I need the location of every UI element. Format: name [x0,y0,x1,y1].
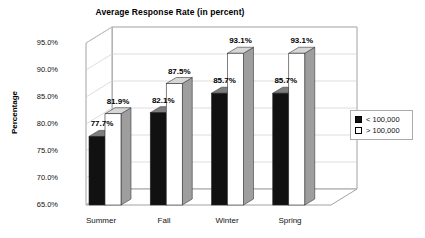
x-tick-label-winter: Winter [192,216,262,225]
bar-value-label: 85.7% [267,76,305,85]
bar-value-label: 77.7% [83,119,121,128]
legend-item-over-100000: > 100,000 [355,125,408,136]
bar-value-label: 93.1% [222,36,260,45]
legend-swatch-icon [355,127,362,134]
chart-root: Average Response Rate (in percent) Perce… [0,0,425,238]
bar-value-label: 93.1% [283,36,321,45]
bar-value-label: 85.7% [206,76,244,85]
bar-value-label: 87.5% [160,67,198,76]
bar-value-label: 81.9% [99,97,137,106]
bar-value-label: 82.1% [144,96,182,105]
legend: < 100,000 > 100,000 [350,110,413,140]
x-tick-label-fall: Fall [129,216,199,225]
x-tick-label-summer: Summer [66,216,136,225]
x-tick-label-spring: Spring [255,216,325,225]
legend-label: > 100,000 [366,126,400,135]
legend-item-under-100000: < 100,000 [355,114,408,125]
legend-label: < 100,000 [366,115,400,124]
legend-swatch-icon [355,116,362,123]
